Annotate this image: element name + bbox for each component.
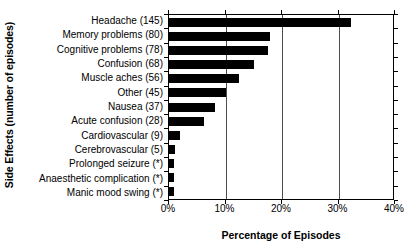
y-axis-tick <box>164 143 168 144</box>
bar <box>169 173 174 182</box>
y-axis-title: Side Effects (number of episodes) <box>0 0 18 210</box>
y-axis-tick-label: Cardiovascular (9) <box>18 129 166 143</box>
y-axis-tick <box>164 43 168 44</box>
y-axis-tick-label: Nausea (37) <box>18 100 166 114</box>
y-axis-tick-right <box>394 200 398 201</box>
y-axis-tick-right <box>394 57 398 58</box>
bar-row <box>169 185 393 199</box>
bar <box>169 103 215 112</box>
x-axis-tick-top <box>338 10 339 14</box>
y-axis-tick-right <box>394 43 398 44</box>
bar <box>169 187 174 196</box>
bar-row <box>169 86 393 100</box>
plot-area <box>168 14 394 200</box>
y-axis-tick <box>164 186 168 187</box>
y-axis-tick-label: Cerebrovascular (5) <box>18 143 166 157</box>
y-axis-tick <box>164 171 168 172</box>
y-axis-tick-right <box>394 157 398 158</box>
x-axis-tick-top <box>281 10 282 14</box>
bar <box>169 131 180 140</box>
y-axis-tick-label: Acute confusion (28) <box>18 114 166 128</box>
bar-row <box>169 171 393 185</box>
bar-row <box>169 157 393 171</box>
bar <box>169 88 226 97</box>
x-axis-tick-label: 10% <box>214 204 234 214</box>
bar-row <box>169 114 393 128</box>
y-axis-tick-label: Memory problems (80) <box>18 28 166 42</box>
y-axis-tick-right <box>394 171 398 172</box>
bar-row <box>169 15 393 29</box>
bar-row <box>169 100 393 114</box>
y-axis-tick-right <box>394 28 398 29</box>
bar-row <box>169 29 393 43</box>
bar <box>169 32 270 41</box>
y-axis-tick <box>164 100 168 101</box>
x-axis-tick-label: 30% <box>327 204 347 214</box>
y-axis-tick <box>164 71 168 72</box>
y-axis-tick-right <box>394 114 398 115</box>
x-axis-tick-top <box>168 10 169 14</box>
y-axis-tick <box>164 57 168 58</box>
x-axis-tick-label: 0% <box>161 204 175 214</box>
bar-row <box>169 142 393 156</box>
y-axis-tick <box>164 157 168 158</box>
y-axis-tick-right <box>394 186 398 187</box>
y-axis-tick-label: Anaesthetic complication (*) <box>18 171 166 185</box>
y-axis-title-text: Side Effects (number of episodes) <box>3 22 15 188</box>
bar <box>169 117 204 126</box>
y-axis-tick-label: Headache (145) <box>18 14 166 28</box>
bar-row <box>169 128 393 142</box>
bars-layer <box>169 15 393 199</box>
y-axis-tick-label: Prolonged seizure (*) <box>18 157 166 171</box>
y-axis-tick-label: Manic mood swing (*) <box>18 186 166 200</box>
y-axis-tick <box>164 86 168 87</box>
bar-row <box>169 57 393 71</box>
bar-row <box>169 43 393 57</box>
x-axis-tick-top <box>225 10 226 14</box>
x-axis-tick-label: 40% <box>384 204 404 214</box>
bar <box>169 60 254 69</box>
y-axis-tick-label: Other (45) <box>18 86 166 100</box>
y-axis-tick-right <box>394 14 398 15</box>
y-axis-tick-labels: Headache (145)Memory problems (80)Cognit… <box>18 14 166 200</box>
y-axis-tick <box>164 114 168 115</box>
y-axis-tick-right <box>394 86 398 87</box>
bar <box>169 18 351 27</box>
bar <box>169 46 268 55</box>
y-axis-tick <box>164 28 168 29</box>
y-axis-tick <box>164 128 168 129</box>
bar-chart: Side Effects (number of episodes) Headac… <box>0 0 420 249</box>
x-axis-tick-label: 20% <box>271 204 291 214</box>
y-axis-tick <box>164 14 168 15</box>
bar <box>169 145 175 154</box>
y-axis-tick-right <box>394 71 398 72</box>
bar <box>169 74 239 83</box>
y-axis-tick <box>164 200 168 201</box>
y-axis-tick-label: Confusion (68) <box>18 57 166 71</box>
y-axis-tick-right <box>394 100 398 101</box>
y-axis-tick-right <box>394 143 398 144</box>
bar-row <box>169 72 393 86</box>
y-axis-tick-right <box>394 128 398 129</box>
y-axis-tick-label: Muscle aches (56) <box>18 71 166 85</box>
x-axis-title: Percentage of Episodes <box>168 229 394 241</box>
bar <box>169 159 174 168</box>
y-axis-tick-label: Cognitive problems (78) <box>18 43 166 57</box>
